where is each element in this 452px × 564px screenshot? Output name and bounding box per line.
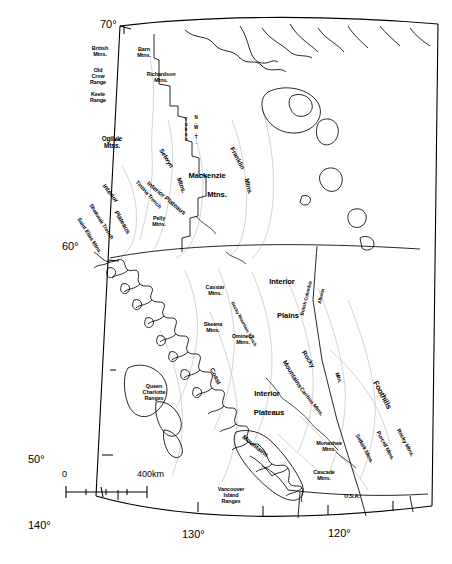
bc-coastline [94,252,303,502]
political-boundaries [110,34,428,518]
scale-bar-distance-label: 400km [137,469,164,479]
interior-region-outlines [120,60,390,490]
physiographic-map-figure: British Mtns.Old Crow RangeKeele RangeBa… [0,0,452,564]
scale-bar [66,486,147,498]
graticule-label-60-1: 60° [62,240,79,252]
graticule-label-130-4: 130° [182,528,205,540]
graticule-label-120-5: 120° [328,527,351,539]
hydrography [196,216,356,468]
coastline [185,24,430,250]
graticule-label-140-3: 140° [28,519,51,531]
graticule-label-70-0: 70° [100,18,117,30]
scale-bar-zero-label: 0 [62,469,67,479]
map-canvas [0,0,452,564]
graticule-label-50-2: 50° [28,453,45,465]
